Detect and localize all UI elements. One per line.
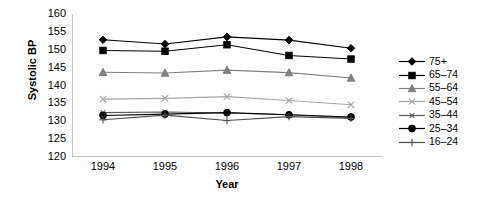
x-tick-label: 1997: [259, 161, 319, 172]
legend-item-75-[interactable]: 75+: [398, 54, 484, 67]
data-point-diamond: [408, 58, 416, 66]
y-tick-label: 145: [40, 62, 66, 73]
legend-item-35-44[interactable]: 35–44: [398, 108, 484, 121]
data-point-diamond: [285, 36, 293, 44]
x-tick-label: 1994: [73, 161, 133, 172]
series-45-54: [100, 93, 354, 108]
data-point-square: [286, 52, 292, 58]
legend-marker-plus-icon: [398, 135, 426, 148]
y-tick-label: 130: [40, 115, 66, 126]
y-tick-label: 135: [40, 97, 66, 108]
data-point-circle: [224, 109, 231, 116]
data-point-diamond: [223, 33, 231, 41]
legend-item-55-64[interactable]: 55–64: [398, 81, 484, 94]
y-tick-label: 140: [40, 80, 66, 91]
legend-label: 35–44: [426, 108, 458, 120]
data-point-square: [409, 72, 415, 78]
y-tick-label: 150: [40, 44, 66, 55]
series-55-64: [99, 66, 355, 81]
plot-area: [72, 14, 382, 157]
systolic-bp-by-year-chart: Systolic BP 120125130135140145150155160 …: [0, 0, 485, 209]
x-tick-label: 1995: [135, 161, 195, 172]
data-point-plus: [223, 117, 230, 124]
legend-label: 25–34: [426, 122, 458, 134]
legend-label: 75+: [426, 55, 447, 67]
x-axis-tick-labels: 19941995199619971998: [72, 161, 382, 177]
legend-label: 16–24: [426, 135, 458, 147]
y-tick-label: 125: [40, 133, 66, 144]
y-tick-label: 160: [40, 8, 66, 19]
data-point-diamond: [161, 40, 169, 48]
legend-item-65-74[interactable]: 65–74: [398, 67, 484, 80]
series-65-74: [100, 42, 354, 63]
legend-marker-square-icon: [398, 68, 426, 81]
series-line: [103, 97, 351, 105]
x-tick-label: 1998: [321, 161, 381, 172]
data-point-square: [348, 56, 354, 62]
legend: 75+65–7455–6445–5435–4425–3416–24: [398, 54, 484, 148]
data-point-square: [162, 48, 168, 54]
data-point-square: [100, 47, 106, 53]
legend-item-45-54[interactable]: 45–54: [398, 94, 484, 107]
x-tick-label: 1996: [197, 161, 257, 172]
data-point-square: [224, 42, 230, 48]
legend-marker-triangle-icon: [398, 81, 426, 94]
x-axis-title: Year: [72, 178, 382, 190]
legend-marker-circle-icon: [398, 121, 426, 134]
legend-label: 55–64: [426, 81, 458, 93]
legend-item-16-24[interactable]: 16–24: [398, 134, 484, 147]
data-point-circle: [409, 125, 416, 132]
legend-marker-diamond-icon: [398, 54, 426, 67]
y-tick-label: 120: [40, 151, 66, 162]
legend-item-25-34[interactable]: 25–34: [398, 121, 484, 134]
y-tick-label: 155: [40, 26, 66, 37]
data-point-diamond: [347, 45, 355, 53]
y-axis-tick-labels: 120125130135140145150155160: [36, 0, 66, 209]
legend-label: 45–54: [426, 95, 458, 107]
legend-marker-cross-x-icon: [398, 94, 426, 107]
data-point-diamond: [99, 36, 107, 44]
legend-label: 65–74: [426, 68, 458, 80]
plot-svg: [72, 14, 382, 157]
data-point-plus: [408, 138, 415, 145]
legend-marker-asterisk-icon: [398, 108, 426, 121]
data-point-asterisk: [409, 113, 415, 118]
